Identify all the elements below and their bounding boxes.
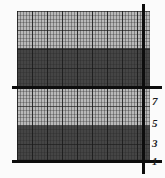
chart-screenshot: 7 5 3 1 [0, 0, 165, 178]
y-tick-label-1: 1 [152, 156, 158, 167]
y-tick-label-5: 5 [152, 118, 158, 129]
axis-rule-vertical [142, 4, 145, 174]
band-lower-light [17, 89, 150, 126]
y-tick-label-7: 7 [152, 96, 158, 107]
band-lower-dark [17, 126, 150, 162]
axis-rule-bottom [12, 160, 162, 163]
y-tick-label-3: 3 [152, 138, 158, 149]
band-upper-dark [17, 48, 150, 87]
band-upper-light [17, 11, 150, 48]
axis-rule-middle [12, 86, 162, 89]
